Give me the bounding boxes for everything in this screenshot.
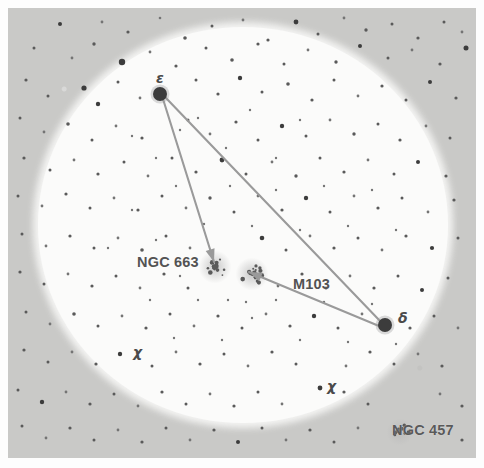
field-star: [25, 311, 28, 314]
field-star: [416, 160, 420, 164]
sky-layer: [0, 0, 484, 468]
field-star: [22, 156, 25, 159]
field-star: [17, 195, 20, 198]
field-star: [64, 192, 67, 195]
chart-label-delta: δ: [398, 310, 408, 326]
field-star: [107, 247, 109, 249]
field-star: [397, 275, 400, 278]
field-star: [93, 439, 96, 442]
field-star: [140, 440, 143, 443]
field-star: [294, 174, 297, 177]
field-star: [334, 60, 337, 63]
field-star: [89, 207, 92, 210]
field-star: [209, 133, 212, 136]
field-star: [299, 339, 301, 341]
field-star: [281, 403, 284, 406]
field-star: [342, 390, 345, 393]
field-star: [49, 169, 52, 172]
field-star: [68, 234, 71, 237]
field-star: [299, 119, 301, 121]
field-star: [309, 235, 312, 238]
field-star: [283, 63, 286, 66]
field-star: [185, 403, 188, 406]
chart-label-ngc663: NGC 663: [137, 254, 199, 270]
field-star: [81, 85, 86, 90]
field-star: [433, 315, 436, 318]
field-star: [251, 317, 253, 319]
field-star: [175, 351, 178, 354]
field-star: [430, 246, 434, 250]
field-star: [333, 441, 336, 444]
cluster-member-star: [252, 268, 254, 270]
field-star: [401, 197, 404, 200]
field-star: [347, 341, 349, 343]
field-stars-group: [17, 17, 469, 444]
field-star: [319, 157, 322, 160]
field-star: [234, 120, 237, 123]
field-star: [174, 64, 177, 67]
field-star: [353, 195, 356, 198]
field-star: [381, 249, 384, 252]
field-star: [179, 129, 181, 131]
field-star: [19, 117, 22, 120]
cluster-member-star: [207, 267, 210, 270]
field-star: [165, 235, 168, 238]
field-star: [266, 38, 269, 41]
field-star: [183, 36, 187, 40]
field-star: [347, 225, 349, 227]
field-star: [438, 62, 441, 65]
chart-label-m103: M103: [293, 276, 330, 292]
field-star: [140, 136, 143, 139]
field-star: [391, 23, 394, 26]
field-star: [307, 49, 310, 52]
field-star: [131, 209, 133, 211]
field-star: [329, 211, 332, 214]
field-star: [67, 273, 70, 276]
field-star: [377, 123, 380, 126]
field-star: [275, 299, 277, 301]
field-star: [249, 109, 251, 111]
field-star: [73, 159, 76, 162]
field-star: [395, 229, 397, 231]
field-star: [460, 438, 463, 441]
field-star: [113, 197, 116, 200]
field-star: [18, 270, 21, 273]
field-star: [380, 84, 383, 87]
field-star: [349, 275, 352, 278]
field-star: [161, 195, 164, 198]
field-star: [47, 361, 50, 364]
field-star: [238, 76, 242, 80]
cluster-member-star: [208, 270, 213, 275]
field-star: [93, 247, 96, 250]
field-star: [427, 211, 430, 214]
field-star: [165, 427, 168, 430]
field-star: [304, 196, 308, 200]
field-star: [216, 92, 219, 95]
field-star: [113, 393, 116, 396]
field-star: [223, 353, 226, 356]
field-star: [92, 42, 95, 45]
field-star: [71, 351, 74, 354]
field-star: [294, 20, 299, 25]
field-star: [260, 236, 265, 241]
field-star: [261, 91, 264, 94]
field-star: [318, 386, 323, 391]
field-star: [22, 348, 25, 351]
field-star: [285, 249, 288, 252]
field-star: [288, 324, 291, 327]
field-star: [205, 47, 208, 50]
field-star: [242, 19, 245, 22]
field-star: [376, 206, 379, 209]
chart-label-ngc457: NGC 457: [392, 422, 454, 438]
field-star: [187, 287, 190, 290]
field-star: [45, 437, 48, 440]
field-star: [197, 117, 199, 119]
field-star: [261, 427, 264, 430]
field-star: [464, 46, 469, 51]
field-star: [33, 47, 36, 50]
pointer-line: [163, 99, 214, 262]
field-star: [216, 314, 219, 317]
field-star: [275, 189, 277, 191]
field-star: [155, 239, 157, 241]
field-star: [126, 30, 129, 33]
